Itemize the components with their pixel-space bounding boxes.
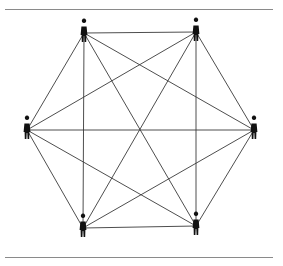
network-diagram <box>0 0 283 266</box>
connection-line-right-to-bottom-left <box>83 130 254 228</box>
connection-line-top-right-to-right <box>196 32 254 130</box>
connection-line-bottom-left-to-left <box>27 130 83 228</box>
connection-line-bottom-right-to-bottom-left <box>83 226 196 228</box>
person-icon-bottom-left <box>80 214 87 237</box>
connection-line-right-to-bottom-right <box>196 130 254 226</box>
connection-lines <box>27 32 254 228</box>
connection-line-top-left-to-bottom-left <box>83 33 84 228</box>
connection-line-top-right-to-left <box>27 32 196 130</box>
connection-line-top-left-to-top-right <box>84 32 196 33</box>
person-icon-left <box>24 116 31 139</box>
connection-line-top-left-to-left <box>27 33 84 130</box>
bottom-divider-rule <box>5 257 273 258</box>
person-icon-right <box>251 116 258 139</box>
person-icon-bottom-right <box>193 212 200 235</box>
person-nodes <box>24 18 258 237</box>
